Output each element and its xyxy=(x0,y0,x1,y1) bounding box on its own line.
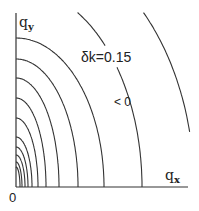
contour-line xyxy=(16,137,32,187)
x-axis-label: qx xyxy=(165,167,181,185)
contour-line xyxy=(16,59,78,187)
contour-line xyxy=(144,13,190,132)
contour-line xyxy=(117,67,142,187)
y-axis-label: qy xyxy=(19,14,35,32)
contour-lines xyxy=(16,13,190,188)
origin-label: 0 xyxy=(9,190,16,205)
contour-line xyxy=(78,13,106,46)
contour-figure: qy qx 0 δk=0.15 < 0 xyxy=(0,0,199,211)
contour-value-label: δk=0.15 xyxy=(81,49,131,65)
sign-label: < 0 xyxy=(114,95,131,109)
